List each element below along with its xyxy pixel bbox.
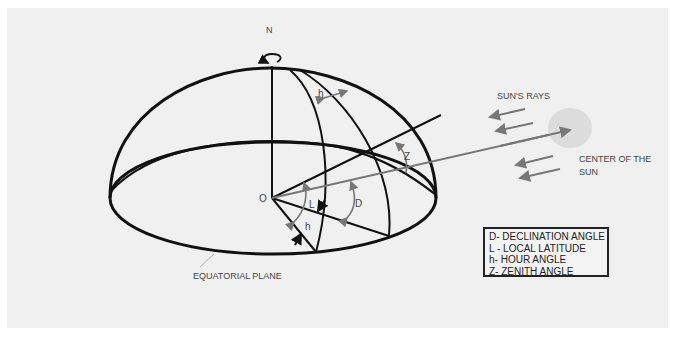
latitude-arc bbox=[112, 141, 436, 195]
rotation-arrow-icon bbox=[264, 54, 280, 63]
legend-item-zenith: Z- ZENITH ANGLE bbox=[489, 266, 603, 278]
legend-item-declination: D- DECLINATION ANGLE bbox=[489, 231, 603, 243]
ray-arrow-2 bbox=[496, 123, 533, 131]
hour-pointer-arrow bbox=[295, 234, 301, 245]
sun-center-circle bbox=[548, 108, 592, 148]
sun-center-label-line2: SUN bbox=[579, 167, 598, 177]
declination-angle-arc bbox=[347, 182, 354, 218]
sun-center-label-line1: CENTER OF THE bbox=[579, 154, 651, 164]
zenith-label: Z bbox=[404, 151, 410, 162]
hour-angle-label-bottom: h bbox=[305, 221, 311, 232]
ray-arrow-1 bbox=[490, 109, 525, 117]
ray-arrow-4 bbox=[520, 169, 560, 178]
suns-rays-label: SUN'S RAYS bbox=[497, 91, 550, 101]
equatorial-plane-leader bbox=[200, 254, 214, 267]
declination-label: D bbox=[355, 198, 362, 209]
celestial-sphere-diagram: N O h h L D Z SUN'S RAYS CENTER OF THE S… bbox=[0, 0, 674, 339]
equatorial-plane-label: EQUATORIAL PLANE bbox=[193, 271, 282, 281]
legend-item-hour-angle: h- HOUR ANGLE bbox=[489, 254, 603, 266]
legend-box: D- DECLINATION ANGLE L - LOCAL LATITUDE … bbox=[483, 227, 609, 277]
origin-label: O bbox=[259, 193, 267, 204]
legend-item-latitude: L - LOCAL LATITUDE bbox=[489, 243, 603, 255]
zenith-line bbox=[272, 115, 441, 198]
ray-arrow-3 bbox=[516, 156, 553, 165]
latitude-label: L bbox=[309, 199, 315, 210]
meridian-radius bbox=[272, 198, 389, 236]
latitude-angle-arc bbox=[294, 183, 306, 222]
north-label: N bbox=[266, 25, 273, 35]
hour-angle-label-top: h bbox=[318, 88, 324, 99]
